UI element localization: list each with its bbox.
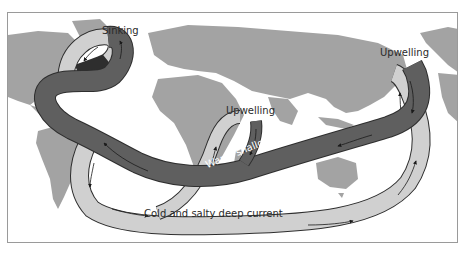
label-upwelling-indian: Upwelling [226,105,275,116]
label-upwelling-pacific: Upwelling [380,47,429,58]
label-cold-current: Cold and salty deep current [144,208,283,219]
label-sinking: Sinking [102,25,139,36]
diagram-frame: Sinking Upwelling Upwelling Warm shallow… [7,12,458,243]
tasmania [338,193,344,198]
australia [316,157,358,189]
nw-america [438,73,458,123]
